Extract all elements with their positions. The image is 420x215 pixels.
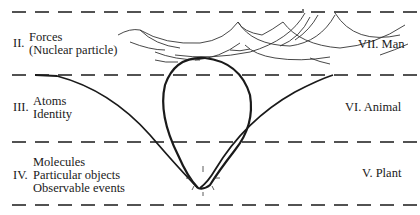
level-iv-line-3: Observable events bbox=[33, 182, 125, 195]
level-v-label: V. Plant bbox=[362, 166, 401, 181]
level-iii-numeral: III. bbox=[13, 101, 29, 114]
level-iv-numeral: IV. bbox=[13, 169, 28, 182]
level-vii-label: VII. Man bbox=[358, 37, 405, 52]
level-ii-line-2: (Nuclear particle) bbox=[29, 44, 117, 57]
level-iii-line-2: Identity bbox=[33, 108, 72, 121]
level-vi-label: VI. Animal bbox=[345, 100, 401, 115]
loop-curve bbox=[163, 58, 251, 189]
diagram-canvas: II. Forces (Nuclear particle) III. Atoms… bbox=[0, 0, 420, 215]
level-ii-numeral: II. bbox=[13, 37, 24, 50]
